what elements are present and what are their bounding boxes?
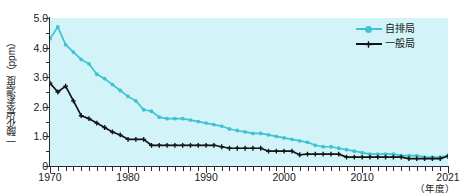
data-point <box>173 117 177 121</box>
data-point <box>204 143 209 148</box>
data-point <box>188 143 193 148</box>
data-point <box>172 143 177 148</box>
data-point <box>165 143 170 148</box>
x-tick-mark <box>409 167 410 171</box>
x-tick-mark <box>401 167 402 171</box>
x-tick-mark <box>393 167 394 171</box>
data-point <box>251 132 255 136</box>
x-tick-label: 2010 <box>350 172 373 183</box>
x-tick-mark <box>222 167 223 171</box>
data-point <box>243 130 247 134</box>
data-point <box>64 43 68 47</box>
x-axis-line <box>49 166 449 167</box>
x-tick-mark <box>183 167 184 171</box>
x-tick-mark <box>144 167 145 171</box>
data-point <box>321 145 325 149</box>
data-point <box>196 143 201 148</box>
y-tick-mark <box>44 166 49 167</box>
x-tick-mark <box>378 167 379 171</box>
data-point <box>306 140 310 144</box>
data-point <box>259 132 263 136</box>
x-tick-mark <box>159 167 160 171</box>
data-point <box>87 62 91 66</box>
x-tick-mark <box>347 167 348 171</box>
data-point <box>111 83 115 87</box>
data-point <box>282 136 286 140</box>
x-tick-mark <box>315 167 316 171</box>
data-point <box>352 149 356 153</box>
x-tick-mark <box>97 167 98 171</box>
legend-label-ippankyoku: 一般局 <box>385 39 415 49</box>
data-point <box>181 117 185 121</box>
data-point <box>336 152 341 157</box>
legend-item-jihaikyoku: 自排局 <box>356 21 415 36</box>
series-line <box>50 83 448 158</box>
data-point <box>235 146 240 151</box>
data-point <box>329 145 333 149</box>
x-tick-mark <box>300 167 301 171</box>
data-point <box>126 95 130 99</box>
x-axis-unit-label: （年度） <box>415 184 455 194</box>
x-tick-mark <box>253 167 254 171</box>
data-point <box>165 117 169 121</box>
data-point <box>274 135 278 139</box>
data-point <box>360 151 364 155</box>
y-tick-mark <box>44 18 49 19</box>
x-tick-mark <box>81 167 82 171</box>
data-point <box>189 118 193 122</box>
data-point <box>329 152 334 157</box>
data-point <box>79 58 83 62</box>
data-point <box>266 149 271 154</box>
data-point <box>72 50 76 54</box>
data-point <box>134 99 138 103</box>
legend-item-ippankyoku: 一般局 <box>356 36 415 51</box>
legend-label-jihaikyoku: 自排局 <box>385 24 415 34</box>
x-tick-mark <box>331 167 332 171</box>
data-point <box>219 144 224 149</box>
data-point <box>375 155 380 160</box>
data-point <box>313 152 318 157</box>
x-tick-mark <box>190 167 191 171</box>
data-point <box>345 148 349 152</box>
data-point <box>321 152 326 157</box>
x-tick-mark <box>269 167 270 171</box>
data-point <box>258 146 263 151</box>
x-tick-mark <box>66 167 67 171</box>
data-point <box>157 115 161 119</box>
data-point <box>157 143 162 148</box>
x-tick-mark <box>386 167 387 171</box>
data-point <box>180 143 185 148</box>
y-tick-mark <box>44 136 49 137</box>
x-tick-mark <box>245 167 246 171</box>
data-point <box>383 155 388 160</box>
data-point <box>414 156 419 161</box>
y-tick-mark <box>44 48 49 49</box>
data-point <box>251 146 256 151</box>
y-tick-mark <box>44 77 49 78</box>
y-tick-mark <box>44 107 49 108</box>
y-tick-mark-minor <box>46 122 49 123</box>
x-tick-mark <box>417 167 418 171</box>
series-ippankyoku <box>50 81 448 161</box>
data-point <box>95 72 99 76</box>
x-tick-label: 2000 <box>272 172 295 183</box>
data-point <box>243 146 248 151</box>
x-tick-mark <box>112 167 113 171</box>
x-tick-mark <box>175 167 176 171</box>
data-point <box>337 146 341 150</box>
x-tick-label: 1990 <box>194 172 217 183</box>
data-point <box>391 155 396 160</box>
x-tick-mark <box>151 167 152 171</box>
y-tick-mark-minor <box>46 33 49 34</box>
x-tick-mark <box>229 167 230 171</box>
data-point <box>267 133 271 137</box>
x-tick-mark <box>73 167 74 171</box>
x-tick-mark <box>167 167 168 171</box>
y-tick-mark-minor <box>46 92 49 93</box>
data-point <box>228 127 232 131</box>
legend-swatch-line-icon <box>356 24 382 34</box>
data-point <box>227 146 232 151</box>
x-tick-label: 1970 <box>38 172 61 183</box>
data-point <box>274 149 279 154</box>
